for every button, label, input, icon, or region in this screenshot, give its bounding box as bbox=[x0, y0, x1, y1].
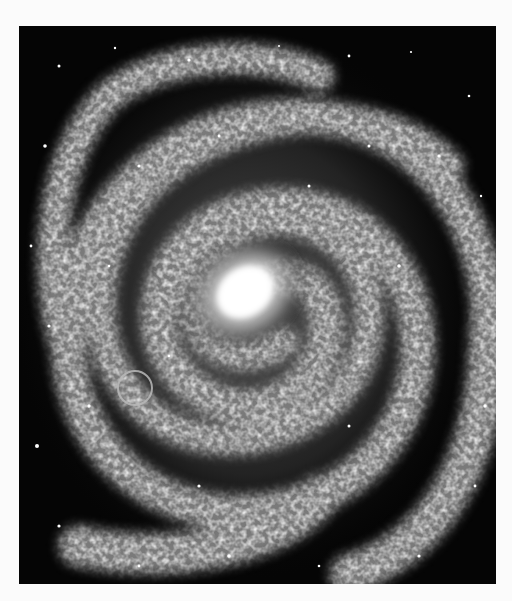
galaxy-render bbox=[19, 26, 496, 584]
galaxy-image bbox=[19, 26, 496, 584]
